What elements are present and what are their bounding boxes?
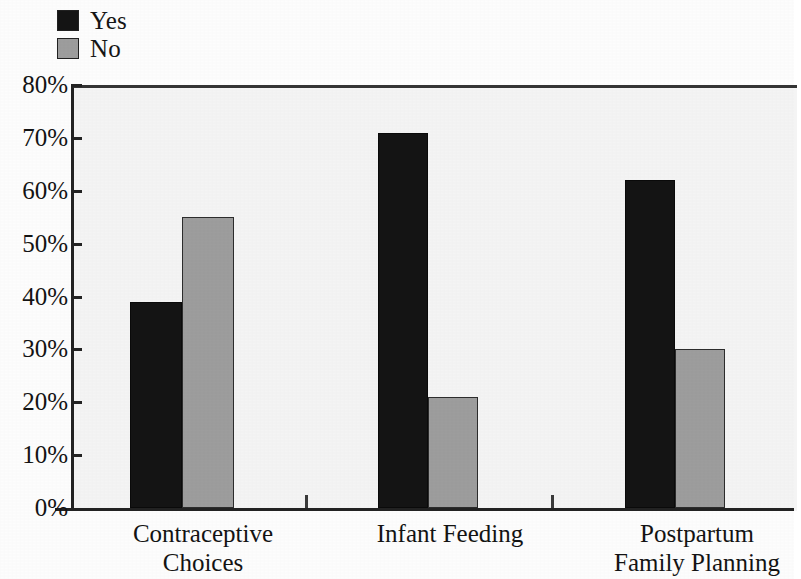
x-axis-category-line: Choices [53, 548, 353, 577]
legend-label-no: No [90, 36, 121, 61]
legend-item-yes[interactable]: Yes [57, 6, 237, 34]
bar-no-0[interactable] [182, 217, 234, 508]
legend-item-no[interactable]: No [57, 34, 237, 62]
bars-layer [0, 85, 794, 508]
bar-no-2[interactable] [675, 349, 725, 508]
bar-yes-1[interactable] [378, 133, 428, 508]
x-axis-tick-mark [551, 495, 554, 508]
x-axis-category-line: Postpartum [547, 519, 801, 548]
x-axis-tick-mark [305, 495, 308, 508]
bar-yes-2[interactable] [625, 180, 675, 508]
legend-label-yes: Yes [90, 8, 127, 33]
bar-no-1[interactable] [428, 397, 478, 508]
x-axis-category-line: Family Planning [547, 548, 801, 577]
x-axis-category-label: PostpartumFamily Planning [547, 519, 801, 577]
x-axis-line [55, 508, 794, 511]
chart-legend: Yes No [57, 6, 237, 62]
bar-yes-0[interactable] [130, 302, 182, 508]
